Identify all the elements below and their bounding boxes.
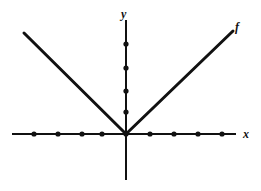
x-axis-dot	[219, 131, 224, 136]
x-axis-dot	[147, 131, 152, 136]
graph-figure: y x f	[0, 0, 261, 191]
function-right-arm	[126, 31, 233, 134]
y-axis-dot	[123, 65, 128, 70]
x-axis-dot	[195, 131, 200, 136]
x-axis-dot	[31, 131, 36, 136]
x-axis-dot	[99, 131, 104, 136]
origin-vertex-dot	[123, 131, 128, 136]
x-axis-dot	[171, 131, 176, 136]
x-axis-label: x	[243, 128, 249, 140]
y-axis-dot	[123, 88, 128, 93]
y-axis-label: y	[121, 8, 126, 20]
x-axis-dot	[55, 131, 60, 136]
y-axis-dot	[123, 109, 128, 114]
coordinate-plane-svg	[0, 0, 261, 191]
x-axis-dot	[79, 131, 84, 136]
function-left-arm	[24, 33, 126, 134]
y-axis-dot	[123, 41, 128, 46]
function-label-f: f	[235, 21, 239, 33]
